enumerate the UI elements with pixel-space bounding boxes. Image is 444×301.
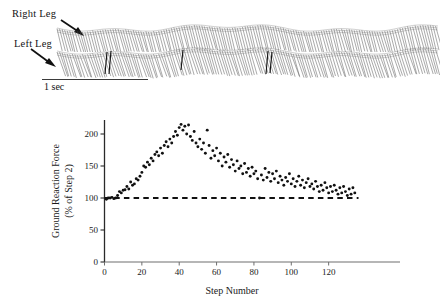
stride-stroke <box>253 49 261 73</box>
data-point <box>215 147 218 150</box>
data-point <box>269 180 272 183</box>
data-point <box>234 170 237 173</box>
data-point <box>247 167 250 170</box>
data-point <box>137 179 140 182</box>
stride-stroke <box>433 26 439 51</box>
data-point <box>116 194 119 197</box>
data-point <box>337 193 340 196</box>
data-point <box>292 177 295 180</box>
data-point <box>277 181 280 184</box>
stride-stroke <box>194 49 203 74</box>
data-point <box>323 181 326 184</box>
stride-stroke <box>278 50 286 75</box>
x-axis-title: Step Number <box>205 285 259 296</box>
data-point <box>213 154 216 157</box>
data-point <box>271 172 274 175</box>
y-tick-label: 200 <box>85 129 99 139</box>
data-point <box>320 184 323 187</box>
data-point <box>163 144 166 147</box>
data-point <box>230 158 233 161</box>
data-point <box>221 165 224 168</box>
data-point <box>322 189 325 192</box>
stride-stroke <box>418 26 425 49</box>
data-point <box>224 161 227 164</box>
data-point <box>172 135 175 138</box>
x-tick-label: 40 <box>175 267 185 277</box>
data-point <box>258 197 261 200</box>
stride-stroke <box>255 26 261 48</box>
data-point <box>340 191 343 194</box>
data-point <box>288 172 291 175</box>
stride-stroke <box>392 30 397 52</box>
data-point <box>327 191 330 194</box>
data-point <box>226 153 229 156</box>
data-point <box>223 156 226 159</box>
stride-stroke <box>390 54 397 77</box>
data-point <box>307 177 310 180</box>
grf-scatter-chart: 050100150200 020406080100120 Step Number… <box>0 104 444 301</box>
data-point <box>338 186 341 189</box>
y-axis-title-line2: (% of Step 2) <box>63 164 75 218</box>
data-point <box>279 175 282 178</box>
time-scalebar <box>42 79 148 80</box>
data-point <box>152 159 155 162</box>
data-point <box>284 176 287 179</box>
data-point <box>290 182 293 185</box>
data-point <box>329 185 332 188</box>
data-point <box>350 193 353 196</box>
data-point <box>155 150 158 153</box>
data-point <box>266 176 269 179</box>
data-point <box>146 161 149 164</box>
stride-stroke <box>369 31 375 52</box>
data-point <box>346 194 349 197</box>
stride-stroke <box>85 32 90 52</box>
figure-container: Right Leg Left Leg 1 sec <box>0 0 444 301</box>
data-point <box>241 172 244 175</box>
plot-area: 050100150200 020406080100120 Step Number… <box>0 104 444 301</box>
data-point <box>252 172 255 175</box>
stride-stroke <box>184 50 191 75</box>
data-point <box>239 165 242 168</box>
stride-stroke <box>275 26 280 49</box>
data-point <box>120 191 123 194</box>
data-point <box>195 142 198 145</box>
stride-stroke <box>161 54 170 78</box>
data-point <box>159 147 162 150</box>
stride-stroke <box>192 26 198 49</box>
stride-stroke <box>164 53 171 77</box>
data-point <box>262 179 265 182</box>
stride-stroke <box>156 55 163 78</box>
data-point <box>314 180 317 183</box>
stride-stroke <box>138 54 146 77</box>
stride-stroke <box>349 29 354 51</box>
data-point <box>182 129 185 132</box>
data-point <box>264 167 267 170</box>
stride-stroke <box>359 30 365 51</box>
stride-stroke <box>126 29 132 51</box>
data-point <box>114 197 117 200</box>
data-point <box>309 185 312 188</box>
data-point <box>232 163 235 166</box>
data-point <box>202 142 205 145</box>
stride-stroke <box>372 31 377 52</box>
data-point <box>127 188 130 191</box>
stride-stroke <box>336 29 342 51</box>
data-point <box>176 134 179 137</box>
data-point <box>286 180 289 183</box>
stride-accent-stroke <box>109 51 111 74</box>
data-point <box>243 162 246 165</box>
scalebar-label: 1 sec <box>44 81 64 92</box>
data-point <box>353 191 356 194</box>
y-tick-label: 100 <box>85 193 99 203</box>
data-point <box>180 123 183 126</box>
y-axis-tick-labels: 050100150200 <box>85 129 99 267</box>
gait-trace-panel: Right Leg Left Leg 1 sec <box>0 0 444 104</box>
data-point <box>125 185 128 188</box>
x-tick-label: 100 <box>285 267 299 277</box>
data-point <box>351 186 354 189</box>
x-tick-label: 0 <box>102 267 107 277</box>
stride-stroke <box>237 28 243 50</box>
stride-stroke <box>382 55 389 78</box>
data-point <box>211 149 214 152</box>
x-tick-label: 20 <box>137 267 147 277</box>
